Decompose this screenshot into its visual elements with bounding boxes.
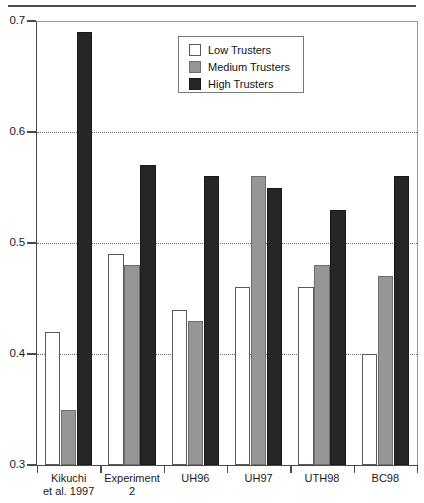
x-axis-group-label: BC98 (354, 472, 417, 485)
x-axis-group-label: UTH98 (290, 472, 353, 485)
bar-high (330, 210, 346, 465)
x-axis-label-line2: 2 (100, 485, 163, 498)
bar-medium (378, 276, 394, 465)
legend-item-high: High Trusters (189, 75, 303, 92)
bar-medium (188, 321, 204, 465)
bar-low (362, 354, 378, 465)
bar-high (77, 32, 93, 465)
bar-medium (314, 265, 330, 465)
bar-high (394, 176, 410, 465)
x-axis-group-label: UH97 (227, 472, 290, 485)
bar-low (172, 310, 188, 465)
bar-medium (251, 176, 267, 465)
bar-medium (124, 265, 140, 465)
legend-swatch-high (189, 78, 201, 90)
x-axis-label-line1: UH96 (181, 472, 209, 484)
x-axis-group-label: Kikuchiet al. 1997 (37, 472, 100, 498)
x-axis-label-line1: Kikuchi (51, 472, 86, 484)
legend-label: Low Trusters (208, 44, 271, 56)
bar-high (267, 188, 283, 466)
bar-chart-figure: 0.30.40.50.60.7 Kikuchiet al. 1997Experi… (0, 0, 424, 503)
x-axis-label-line2: et al. 1997 (37, 485, 100, 498)
x-axis-label-line1: UTH98 (305, 472, 340, 484)
x-axis-label-line1: Experiment (104, 472, 160, 484)
x-axis-group-label: UH96 (164, 472, 227, 485)
legend-swatch-low (189, 44, 201, 56)
legend-item-low: Low Trusters (189, 41, 303, 58)
legend: Low TrustersMedium TrustersHigh Trusters (178, 36, 304, 93)
bar-low (235, 287, 251, 465)
legend-label: High Trusters (208, 78, 273, 90)
x-axis-label-line1: UH97 (245, 472, 273, 484)
bar-low (45, 332, 61, 465)
x-axis-group-label: Experiment2 (100, 472, 163, 498)
bar-high (140, 165, 156, 465)
legend-item-medium: Medium Trusters (189, 58, 303, 75)
bar-low (298, 287, 314, 465)
x-axis-label-line1: BC98 (372, 472, 400, 484)
bar-high (204, 176, 220, 465)
bar-low (108, 254, 124, 465)
legend-label: Medium Trusters (208, 61, 290, 73)
legend-swatch-medium (189, 61, 201, 73)
bar-medium (61, 410, 77, 466)
